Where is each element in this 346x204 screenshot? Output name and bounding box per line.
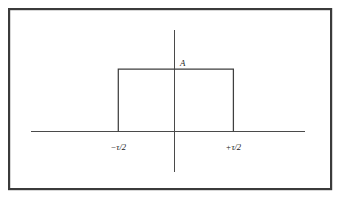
pulse-waveform-figure: A −τ/2 +τ/2 <box>0 0 346 204</box>
right-tick-label: +τ/2 <box>226 142 242 152</box>
amplitude-label: A <box>179 58 186 68</box>
figure-container: A −τ/2 +τ/2 <box>0 0 346 204</box>
figure-background <box>0 0 346 204</box>
left-tick-label: −τ/2 <box>111 142 127 152</box>
